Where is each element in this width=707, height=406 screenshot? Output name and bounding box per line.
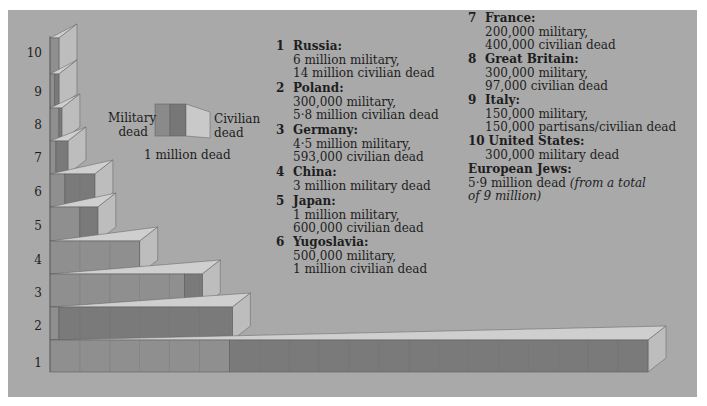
legend-military-swatch — [170, 104, 186, 136]
y-label-2: 2 — [18, 319, 42, 333]
entry-great-britain: 8 Great Britain: 300,000 military, 97,00… — [485, 53, 608, 94]
bar-military-segment — [50, 174, 65, 207]
bar-civilian-segment — [56, 141, 68, 174]
y-label-7: 7 — [18, 151, 42, 165]
bar-civilian-segment — [59, 307, 232, 340]
legend-side-face — [155, 104, 170, 136]
entry-japan: 5 Japan: 1 million military, 600,000 civ… — [293, 195, 424, 236]
y-label-10: 10 — [18, 46, 42, 60]
legend-civilian-swatch — [186, 104, 210, 138]
entry-european-jews: European Jews: 5·9 million dead (from a … — [468, 163, 646, 204]
y-label-3: 3 — [18, 286, 42, 300]
bar-military-segment — [50, 74, 54, 108]
legend-military-label: Military dead — [108, 111, 148, 139]
bar-military-segment — [50, 108, 59, 141]
entry-poland: 2 Poland: 300,000 military, 5·8 million … — [293, 82, 439, 123]
entry-china: 4 China: 3 million military dead — [293, 166, 431, 193]
bar-civilian-segment — [59, 108, 62, 141]
legend-scale-label: 1 million dead — [144, 148, 231, 162]
entry-italy: 9 Italy: 150,000 military, 150,000 parti… — [485, 94, 676, 135]
y-label-5: 5 — [18, 219, 42, 233]
y-label-6: 6 — [18, 185, 42, 199]
y-label-1: 1 — [18, 356, 42, 370]
bar-civilian-segment — [54, 74, 58, 108]
entry-russia: 1 Russia: 6 million military, 14 million… — [293, 40, 435, 81]
bar-military-segment — [50, 307, 59, 340]
y-label-4: 4 — [18, 253, 42, 267]
entry-germany: 3 Germany: 4·5 million military, 593,000… — [293, 124, 424, 165]
bar-military-segment — [50, 38, 59, 74]
entry-united-states: 10 United States: 300,000 military dead — [468, 135, 619, 162]
bar-military-segment — [50, 207, 80, 241]
entry-yugoslavia: 6 Yugoslavia: 500,000 military, 1 millio… — [293, 236, 427, 277]
bar-military-segment — [50, 141, 56, 174]
y-label-8: 8 — [18, 118, 42, 132]
entry-france: 7 France: 200,000 military, 400,000 civi… — [485, 12, 616, 53]
y-label-9: 9 — [18, 85, 42, 99]
legend-civilian-label: Civilian dead — [214, 112, 260, 140]
